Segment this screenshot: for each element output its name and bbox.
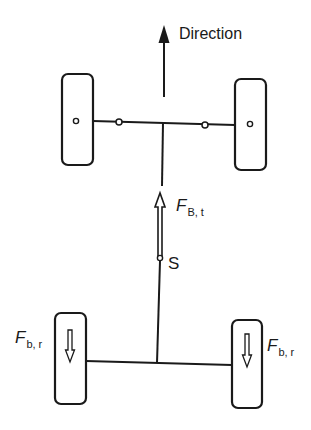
rear-right-braking-force-label: Fb, r	[267, 337, 294, 354]
inertia-force-arrow-icon	[155, 193, 165, 256]
rear-spine	[157, 261, 160, 363]
vehicle-braking-force-diagram: Direction FB, t S Fb, r Fb, r	[0, 0, 311, 430]
front-left-wheel	[62, 74, 93, 165]
force-symbol: F	[15, 328, 25, 347]
force-subscript: b, r	[278, 346, 294, 358]
rear-left-braking-force-label: Fb, r	[15, 329, 42, 346]
front-axle	[93, 119, 235, 128]
front-spine	[162, 123, 163, 186]
force-symbol: F	[267, 336, 277, 355]
front-right-wheel	[235, 79, 266, 170]
rear-right-wheel	[232, 320, 262, 408]
rear-left-wheel	[55, 313, 86, 404]
inertia-force-label: FB, t	[176, 197, 204, 214]
center-of-gravity-point	[157, 255, 162, 260]
rear-axle	[86, 361, 232, 365]
center-of-gravity-label: S	[168, 255, 179, 272]
force-subscript: b, r	[26, 338, 42, 350]
direction-label: Direction	[179, 26, 242, 42]
direction-arrow-icon	[159, 25, 170, 97]
force-symbol: F	[176, 196, 186, 215]
diagram-svg	[0, 0, 311, 430]
force-subscript: B, t	[187, 206, 204, 218]
